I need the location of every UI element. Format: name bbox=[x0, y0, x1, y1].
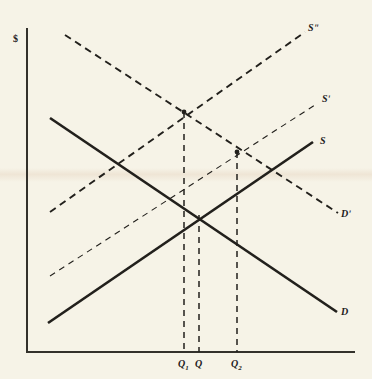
curve-s-double-prime bbox=[50, 32, 305, 212]
tick-label-q2-sub: 2 bbox=[237, 364, 242, 372]
tick-label-q-base: Q bbox=[195, 358, 202, 369]
label-s-double-prime: Sʺ bbox=[308, 22, 319, 33]
marker-q2 bbox=[235, 150, 240, 155]
supply-demand-chart: $ Sʺ Sʹ S Dʹ D Q1 Q bbox=[0, 0, 372, 379]
curve-labels: Sʺ Sʹ S Dʹ D bbox=[308, 22, 351, 317]
marker-q1 bbox=[182, 110, 187, 115]
drop-lines bbox=[184, 112, 237, 352]
label-s-prime: Sʹ bbox=[322, 93, 331, 104]
curves bbox=[48, 32, 338, 323]
tick-label-q2: Q2 bbox=[231, 358, 242, 372]
label-d: D bbox=[340, 306, 348, 317]
tick-label-q: Q bbox=[195, 358, 202, 369]
curve-d-prime bbox=[65, 35, 338, 213]
tick-label-q1-base: Q bbox=[178, 358, 185, 369]
y-axis-label: $ bbox=[13, 33, 18, 44]
tick-label-q2-base: Q bbox=[231, 358, 238, 369]
tick-label-q1-sub: 1 bbox=[185, 364, 189, 372]
curve-d bbox=[50, 118, 337, 312]
label-d-prime: Dʹ bbox=[340, 208, 351, 219]
curve-s bbox=[48, 142, 313, 323]
label-s: S bbox=[320, 135, 326, 146]
x-tick-labels: Q1 Q Q2 bbox=[178, 358, 242, 372]
tick-label-q1: Q1 bbox=[178, 358, 189, 372]
